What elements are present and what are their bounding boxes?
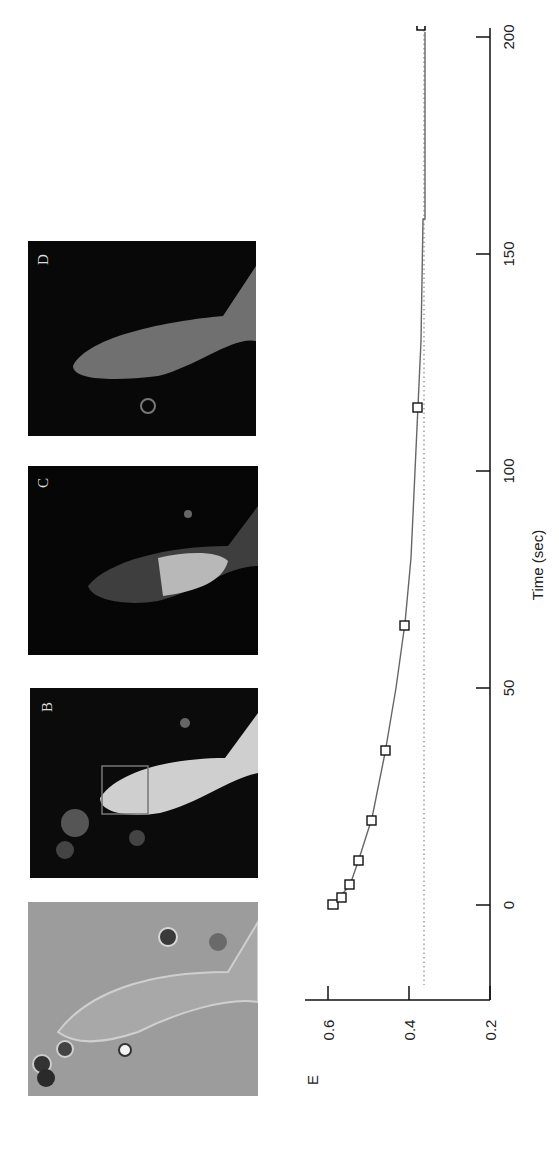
svg-text:100: 100 — [500, 458, 517, 483]
svg-text:0.6: 0.6 — [320, 1020, 337, 1041]
svg-text:50: 50 — [500, 680, 517, 697]
x-axis-title: Time (sec) — [529, 530, 546, 600]
panel-label-e: E — [304, 1075, 321, 1085]
panel-b-prebleach-image: B — [30, 688, 258, 878]
svg-text:0.4: 0.4 — [401, 1020, 418, 1041]
svg-text:150: 150 — [500, 241, 517, 266]
panel-label-d: D — [35, 254, 51, 265]
svg-text:0.2: 0.2 — [482, 1020, 499, 1041]
panel-c-postbleach-image: C — [28, 466, 258, 655]
x-tick-labels: 0 50 100 150 200 — [500, 24, 517, 909]
panel-a-brightfield-image: A — [28, 902, 258, 1096]
fit-curve — [333, 32, 425, 905]
svg-text:0: 0 — [500, 901, 517, 909]
svg-text:200: 200 — [500, 24, 517, 49]
end-marker — [417, 26, 425, 30]
panel-label-b: B — [39, 702, 55, 712]
y-ticks — [328, 986, 490, 1000]
y-tick-labels: 0.6 0.4 0.2 — [320, 1020, 499, 1041]
panel-label-c: C — [35, 478, 51, 488]
x-ticks — [476, 37, 490, 905]
data-markers — [328, 403, 422, 909]
panel-d-recovered-image: D — [28, 241, 256, 436]
